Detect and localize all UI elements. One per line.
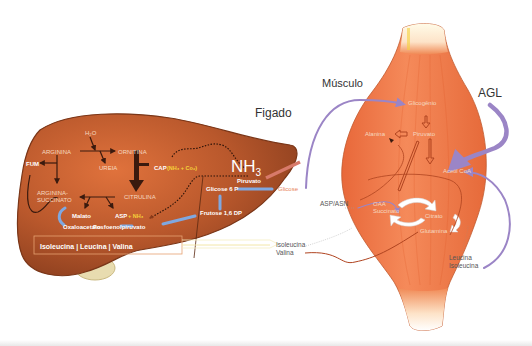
label-citrulina: CITRULINA <box>124 194 156 200</box>
amino-acid-metabolism-diagram: Figado H₂O ARGININA ORNITINA URE <box>0 0 532 346</box>
label-ureia: UREIA <box>99 165 117 171</box>
label-cap-detail: (NH₃ + Co₂) <box>167 165 197 171</box>
label-fum: FUM <box>26 161 39 167</box>
label-ornitina: ORNITINA <box>118 149 147 155</box>
label-glicogenio: Glicogênio <box>408 100 437 106</box>
label-arginina-succinato-2: SUCCINATO <box>37 197 72 203</box>
label-bcaa-box: Isoleucina | Leucina | Valina <box>40 243 133 251</box>
label-leucina-isoleucina-2: Isoleucina <box>449 262 479 269</box>
label-arginina: ARGININA <box>42 149 71 155</box>
label-isoleucina-valina-1: Isoleucina <box>276 241 306 248</box>
bcaa-dotted-connector <box>306 228 352 246</box>
label-piruvato-muscle: Piruvato <box>413 131 436 137</box>
label-isoleucina-valina-2: Valina <box>276 249 294 256</box>
label-asp-asn: ASP/ASN <box>320 200 348 207</box>
label-piruvato-liver: Piruvato <box>237 178 261 184</box>
bcaa-outflow-arrow <box>182 240 278 248</box>
liver-label: Figado <box>255 106 292 120</box>
label-acetil-coa: Acetil CoA <box>443 168 471 174</box>
label-malato: Malato <box>72 213 91 219</box>
muscle-label: Músculo <box>322 77 363 89</box>
label-cap: CAP <box>154 165 167 171</box>
label-oaa: OAA <box>373 201 386 207</box>
label-frutose16dp: Frutose 1,6 DP <box>200 210 242 216</box>
label-fosfoenolpiruvato: Fosfoenolpiruvato <box>93 224 146 230</box>
label-succinato: Succinato <box>373 208 400 214</box>
label-leucina-isoleucina-1: Leucina <box>449 254 472 261</box>
label-glicose6p: Glicose 6 P <box>206 186 238 192</box>
muscle-organ <box>342 24 487 331</box>
label-arginina-succinato-1: ARGININA- <box>37 190 68 196</box>
label-h2o: H₂O <box>85 130 97 136</box>
fatty-acids-label: AGL <box>478 86 502 100</box>
label-asp-nh3: + NH₃ <box>128 213 144 219</box>
bottom-border <box>0 340 532 346</box>
label-alanina: Alanina <box>365 131 386 137</box>
label-asp: ASP <box>115 213 127 219</box>
label-glutamina: Glutamina <box>420 228 448 234</box>
label-citrato: Citrato <box>425 213 443 219</box>
label-glicose: Glicose <box>278 186 299 192</box>
